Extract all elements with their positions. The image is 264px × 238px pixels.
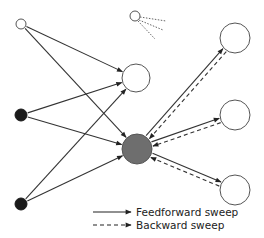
- input-filled-mid-node: [15, 109, 27, 121]
- feedforward-edge: [146, 49, 223, 136]
- feedforward-edge: [28, 117, 122, 145]
- light-source-light-icon: [130, 11, 140, 21]
- input-filled-bottom-node: [15, 198, 27, 210]
- light-rays-icon: [138, 17, 166, 39]
- legend: [93, 212, 131, 225]
- output-mid-node: [220, 100, 250, 130]
- input-open-top-node: [16, 19, 26, 29]
- hidden-center-node: [122, 134, 152, 164]
- feedforward-edge: [151, 118, 219, 142]
- backward-edge: [149, 52, 226, 139]
- backward-edge: [153, 123, 221, 147]
- hidden-top-node: [122, 64, 150, 92]
- backward-edge: [151, 157, 219, 186]
- nodes: [15, 11, 250, 210]
- output-top-node: [220, 23, 250, 53]
- feedforward-edge: [153, 153, 221, 182]
- output-bottom-node: [220, 175, 250, 205]
- legend-feedforward-label: Feedforward sweep: [136, 206, 238, 218]
- feedforward-edge: [26, 89, 126, 199]
- diagram-canvas: Feedforward sweep Backward sweep: [0, 0, 264, 238]
- network-diagram: [0, 0, 264, 238]
- feedforward-edge: [26, 27, 122, 72]
- legend-backward-label: Backward sweep: [136, 219, 224, 231]
- feedforward-edge: [27, 156, 122, 201]
